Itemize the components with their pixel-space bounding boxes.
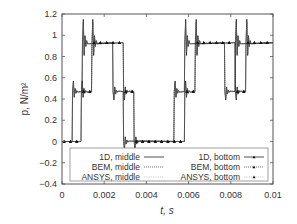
y-tick-label: 0.8	[44, 52, 57, 62]
x-tick-label: 0.006	[177, 190, 200, 200]
y-axis-label: p, N/m²	[19, 82, 30, 115]
legend-label: ANSYS, middle	[81, 172, 140, 182]
legend-label: BEM, middle	[92, 162, 140, 172]
pressure-time-chart: 00.0020.0040.0060.0080.01−0.4−0.200.20.4…	[0, 0, 297, 224]
y-tick-label: 0	[52, 137, 57, 147]
x-tick-label: 0	[59, 190, 64, 200]
y-tick-label: 1.2	[44, 9, 57, 19]
y-tick-label: 0.6	[44, 73, 57, 83]
y-tick-label: 1	[52, 30, 57, 40]
y-tick-label: −0.2	[39, 158, 57, 168]
triangle-marker-icon	[99, 41, 102, 44]
triangle-marker-icon	[259, 41, 262, 44]
x-tick-label: 0.002	[93, 190, 116, 200]
y-tick-label: 0.4	[44, 94, 57, 104]
triangle-marker-icon	[202, 41, 205, 44]
x-tick-label: 0.01	[264, 190, 282, 200]
y-tick-label: −0.4	[39, 179, 57, 189]
y-tick-label: 0.2	[44, 115, 57, 125]
triangle-marker-icon	[209, 41, 212, 44]
legend-label: ANSYS, bottom	[180, 172, 240, 182]
legend-label: 1D, bottom	[198, 152, 240, 162]
x-tick-label: 0.008	[220, 190, 243, 200]
legend-label: 1D, middle	[99, 152, 140, 162]
legend-label: BEM, bottom	[191, 162, 240, 172]
x-tick-label: 0.004	[135, 190, 158, 200]
triangle-marker-icon	[253, 41, 256, 44]
legend: 1D, middleBEM, middleANSYS, middle1D, bo…	[70, 148, 268, 182]
plot-lines	[62, 19, 273, 150]
x-axis-label: t, s	[160, 205, 173, 216]
